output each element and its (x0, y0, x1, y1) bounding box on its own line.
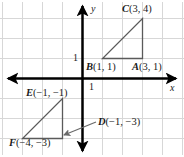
point-coords-b: (1, 1) (93, 61, 116, 72)
point-label-b: B(1, 1) (86, 61, 116, 72)
d-leader-arrow-icon (64, 122, 96, 135)
point-name-c: C (122, 3, 129, 14)
point-coords-e: (−1, −1) (33, 87, 68, 98)
coordinate-plane-svg (0, 0, 184, 157)
point-label-c: C(3, 4) (122, 3, 152, 14)
point-name-b: B (86, 61, 93, 72)
point-label-d: D(−1, −3) (98, 116, 140, 127)
point-name-d: D (98, 116, 106, 127)
y-axis-unit-tick-label: 1 (73, 52, 78, 63)
point-coords-f: (−4, −3) (16, 137, 51, 148)
point-coords-a: (3, 1) (139, 61, 162, 72)
y-axis-label: y (91, 3, 95, 14)
x-axis-label: x (170, 82, 174, 93)
x-axis-unit-tick-label: 1 (89, 81, 94, 92)
point-label-f: F(−4, −3) (9, 137, 51, 148)
point-name-e: E (26, 87, 33, 98)
point-name-f: F (9, 137, 16, 148)
point-coords-c: (3, 4) (129, 3, 152, 14)
coordinate-plane-figure: y x 1 1 C(3, 4) B(1, 1) A(3, 1) E(−1, −1… (0, 0, 184, 157)
point-label-e: E(−1, −1) (26, 87, 68, 98)
point-name-a: A (132, 61, 139, 72)
point-label-a: A(3, 1) (132, 61, 162, 72)
point-coords-d: (−1, −3) (106, 116, 141, 127)
